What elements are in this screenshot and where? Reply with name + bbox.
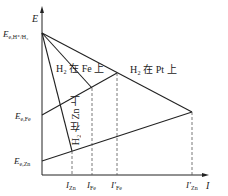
curve-label-h2-fe: H₂ 在 Fe 上 <box>56 64 104 74</box>
current-label-i-zn-prime: I′Zn <box>186 181 198 191</box>
x-axis-label: I <box>206 181 209 191</box>
curve-label-h2-zn: H₂ 在 Zn 上 <box>71 96 81 145</box>
current-label-i-zn: IZn <box>66 181 76 191</box>
potential-label-h: Ee,H⁺/H₂ <box>3 30 28 40</box>
current-label-i-fe: IFe <box>87 181 96 191</box>
polarization-diagram <box>0 0 228 196</box>
h2-zn-line <box>42 33 72 151</box>
y-axis-arrow-icon <box>40 6 44 13</box>
x-axis-arrow-icon <box>202 173 209 177</box>
potential-label-fe: Ee,Fe <box>15 112 31 122</box>
current-label-i-fe-prime: I′Fe <box>111 181 122 191</box>
y-axis-label: E <box>32 14 38 24</box>
curve-label-h2-pt: H₂ 在 Pt 上 <box>130 65 177 75</box>
potential-label-zn: Ee,Zn <box>14 157 30 167</box>
